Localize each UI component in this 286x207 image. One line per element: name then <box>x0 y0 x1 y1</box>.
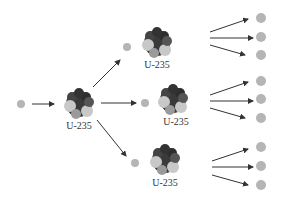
u235-nucleus-icon <box>142 27 172 58</box>
neutron-icon <box>256 76 266 86</box>
neutron-icon <box>256 113 266 123</box>
neutron-icon <box>256 32 266 42</box>
neutron-icon <box>131 159 139 167</box>
neutron-icon <box>256 94 266 104</box>
u235-nucleus-icon <box>150 144 180 175</box>
neutron-icon <box>256 50 266 60</box>
u235-nucleus-icon <box>158 84 188 115</box>
neutron-icon <box>256 180 266 190</box>
nucleus-label: U-235 <box>144 59 170 70</box>
nucleus-label: U-235 <box>163 116 189 127</box>
neutron-icon <box>17 100 25 108</box>
nucleus-label: U-235 <box>66 120 92 131</box>
nucleus-label: U-235 <box>152 177 178 188</box>
neutron-icon <box>256 142 266 152</box>
u235-nucleus-icon <box>64 88 94 119</box>
neutron-icon <box>123 43 131 51</box>
neutron-icon <box>256 161 266 171</box>
neutron-icon <box>141 99 149 107</box>
chain-reaction-diagram <box>0 0 286 207</box>
neutron-icon <box>256 13 266 23</box>
